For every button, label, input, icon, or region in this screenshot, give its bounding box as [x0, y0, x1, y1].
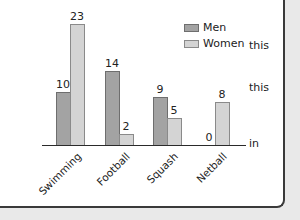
legend-swatch-men — [184, 24, 199, 32]
legend-women: Women — [184, 37, 244, 50]
legend-men: Men — [184, 21, 226, 34]
value-label: 2 — [116, 120, 136, 133]
value-label: 0 — [199, 131, 219, 144]
x-axis-line — [42, 145, 246, 146]
bar-chart: 10 23 14 2 9 5 0 8 Swimming Football Squ… — [0, 0, 300, 220]
bar-squash-women — [167, 118, 182, 146]
category-label-squash: Squash — [145, 150, 181, 186]
value-label: 9 — [150, 83, 170, 96]
annotation-in: in — [249, 137, 259, 150]
legend-swatch-women — [184, 40, 199, 48]
category-label-football: Football — [95, 150, 133, 188]
value-label: 23 — [67, 10, 87, 23]
value-label: 8 — [212, 88, 232, 101]
category-label-netball: Netball — [194, 150, 229, 185]
bar-football-men — [105, 71, 120, 146]
legend-label-men: Men — [203, 21, 226, 34]
legend-label-women: Women — [203, 37, 244, 50]
value-label: 5 — [164, 104, 184, 117]
value-label: 14 — [102, 57, 122, 70]
category-label-swimming: Swimming — [36, 150, 83, 197]
annotation-this-1: this — [249, 39, 269, 52]
bar-swimming-men — [56, 92, 71, 146]
value-label: 10 — [53, 78, 73, 91]
annotation-this-2: this — [249, 81, 269, 94]
